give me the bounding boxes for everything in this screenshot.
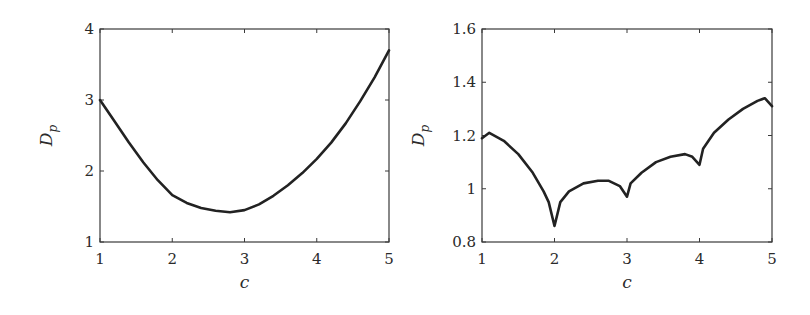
y-tick-label: 1.4 <box>452 73 476 91</box>
y-axis-label: Dp <box>36 125 60 148</box>
axes-frame <box>482 29 772 242</box>
chart-canvas: 123451234cDp 123450.811.21.41.6cDp <box>0 0 810 315</box>
x-tick-label: 4 <box>695 250 705 268</box>
y-tick-label: 4 <box>84 20 94 38</box>
y-tick-label: 0.8 <box>452 233 476 251</box>
x-tick-label: 2 <box>550 250 560 268</box>
x-tick-label: 2 <box>167 250 177 268</box>
x-tick-label: 1 <box>477 250 487 268</box>
y-tick-label: 1 <box>466 180 476 198</box>
y-tick-label: 1.2 <box>452 127 476 145</box>
y-tick-label: 3 <box>84 91 94 109</box>
y-tick-label: 2 <box>84 162 94 180</box>
x-axis-label: c <box>240 272 250 292</box>
x-tick-label: 1 <box>95 250 105 268</box>
x-tick-label: 5 <box>767 250 777 268</box>
data-line <box>100 50 389 212</box>
x-axis-label: c <box>622 272 632 292</box>
y-tick-label: 1.6 <box>452 20 476 38</box>
x-tick-label: 3 <box>240 250 250 268</box>
left-plot: 123451234cDp <box>36 20 394 292</box>
y-tick-label: 1 <box>84 233 94 251</box>
data-line <box>482 98 772 226</box>
x-tick-label: 5 <box>384 250 394 268</box>
x-tick-label: 3 <box>622 250 632 268</box>
y-axis-label: Dp <box>408 125 432 148</box>
right-plot: 123450.811.21.41.6cDp <box>408 20 777 292</box>
x-tick-label: 4 <box>312 250 322 268</box>
